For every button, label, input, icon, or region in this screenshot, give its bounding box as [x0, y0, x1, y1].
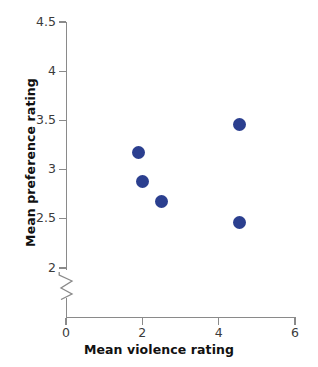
x-tick-mark	[142, 318, 143, 325]
data-point[interactable]	[136, 175, 149, 188]
y-axis-line	[66, 22, 67, 270]
x-axis-line	[66, 317, 296, 318]
y-axis-title: Mean preference rating	[23, 43, 38, 283]
y-axis-lower-stub	[66, 298, 67, 318]
y-tick-mark	[59, 267, 66, 268]
x-axis-title: Mean violence rating	[0, 342, 318, 357]
x-tick-mark	[294, 318, 295, 325]
y-tick-label: 4.5	[12, 16, 56, 29]
scatter-chart-figure: 4.543.532.52 0246 Mean preference rating…	[0, 0, 318, 367]
plot-data-area	[0, 0, 318, 367]
y-tick-mark	[59, 71, 66, 72]
y-axis-break-icon	[58, 272, 80, 300]
x-tick-label: 2	[127, 327, 157, 341]
data-point[interactable]	[233, 118, 246, 131]
x-tick-mark	[218, 318, 219, 325]
x-tick-label: 0	[51, 327, 81, 341]
x-tick-label-text: 2	[127, 327, 157, 340]
x-tick-label-text: 6	[280, 327, 310, 340]
x-tick-label: 6	[280, 327, 310, 341]
y-tick-mark	[59, 169, 66, 170]
y-tick-mark	[59, 120, 66, 121]
x-tick-label-text: 0	[51, 327, 81, 340]
data-point[interactable]	[233, 216, 246, 229]
x-tick-mark	[65, 318, 66, 325]
x-tick-label: 4	[204, 327, 234, 341]
data-point[interactable]	[132, 146, 145, 159]
y-tick-mark	[59, 21, 66, 22]
x-tick-label-text: 4	[204, 327, 234, 340]
y-tick-mark	[59, 218, 66, 219]
y-tick-label-text: 4.5	[12, 16, 56, 29]
data-point[interactable]	[155, 195, 168, 208]
